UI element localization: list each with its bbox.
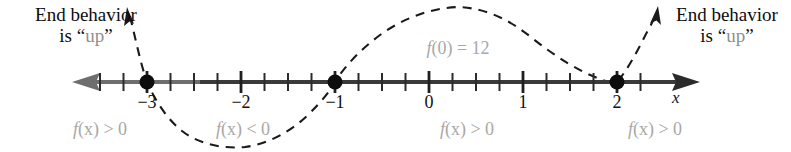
right-end-behavior-arrowhead bbox=[650, 6, 661, 25]
tick-label-1: 1 bbox=[503, 92, 543, 112]
number-line-axis bbox=[72, 73, 700, 91]
sign-1-arg: (x) bbox=[78, 119, 99, 139]
right-end-behavior-line2: is “up” bbox=[666, 25, 788, 46]
sign-3-zero: 0 bbox=[485, 119, 494, 139]
right-end-behavior-line1: End behavior bbox=[676, 4, 778, 25]
sign-3-arg: (x) bbox=[445, 119, 466, 139]
left-end-behavior-word: up bbox=[85, 25, 104, 46]
zero-dot-2 bbox=[610, 75, 625, 90]
tick-label-minus2: −2 bbox=[221, 92, 261, 112]
sign-3-rel: > bbox=[466, 119, 485, 139]
y-intercept-value: 12 bbox=[472, 38, 490, 58]
sign-1-rel: > bbox=[99, 119, 118, 139]
sign-1-zero: 0 bbox=[118, 119, 127, 139]
sign-2-rel: < bbox=[242, 119, 261, 139]
sign-4-arg: (x) bbox=[633, 119, 654, 139]
sign-4-rel: > bbox=[654, 119, 673, 139]
zero-dot-minus3 bbox=[140, 75, 155, 90]
x-axis-label: x bbox=[672, 88, 680, 107]
tick-label-minus1: −1 bbox=[315, 92, 355, 112]
left-end-behavior-line2: is “up” bbox=[6, 25, 166, 46]
sign-4-zero: 0 bbox=[673, 119, 682, 139]
sign-2-zero: 0 bbox=[261, 119, 270, 139]
zero-dot-minus1 bbox=[328, 75, 343, 90]
tick-label-2: 2 bbox=[597, 92, 637, 112]
tick-label-minus3: −3 bbox=[127, 92, 167, 112]
right-end-behavior-quote-open: is “ bbox=[700, 25, 726, 46]
right-end-behavior-word: up bbox=[726, 25, 745, 46]
sign-label-interval-4: f(x) > 0 bbox=[595, 119, 715, 139]
sign-2-arg: (x) bbox=[221, 119, 242, 139]
sign-label-interval-3: f(x) > 0 bbox=[407, 119, 527, 139]
left-axis-arrowhead bbox=[72, 73, 100, 91]
right-end-behavior-label: End behavior is “up” bbox=[666, 4, 788, 47]
sign-chart-figure: End behavior is “up” End behavior is “up… bbox=[0, 0, 791, 152]
right-end-behavior-quote-close: ” bbox=[745, 25, 753, 46]
left-end-behavior-quote-close: ” bbox=[104, 25, 112, 46]
left-end-behavior-label: End behavior is “up” bbox=[6, 4, 166, 47]
left-end-behavior-quote-open: is “ bbox=[59, 25, 85, 46]
tick-label-0: 0 bbox=[409, 92, 449, 112]
y-intercept-arg: (0) bbox=[431, 38, 452, 58]
y-intercept-equals: = bbox=[452, 38, 471, 58]
sign-label-interval-1: f(x) > 0 bbox=[40, 119, 160, 139]
sign-label-interval-2: f(x) < 0 bbox=[183, 119, 303, 139]
y-intercept-label: f(0) = 12 bbox=[398, 38, 518, 58]
left-end-behavior-line1: End behavior bbox=[35, 4, 137, 25]
